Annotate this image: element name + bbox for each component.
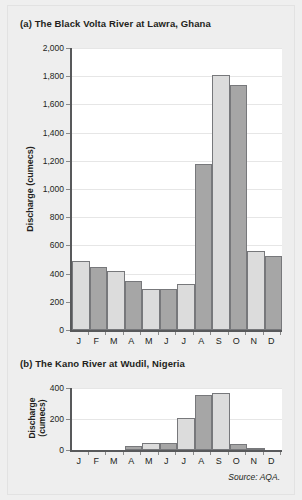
- y-axis-tick: [66, 330, 70, 331]
- x-axis-tick: [263, 332, 264, 335]
- y-axis-tick-label: 0: [28, 325, 64, 335]
- x-axis-tick-label: J: [158, 456, 176, 466]
- bar: [230, 85, 248, 330]
- bar: [247, 448, 265, 450]
- bar: [160, 289, 178, 330]
- y-axis-tick: [66, 189, 70, 190]
- y-axis-tick: [66, 274, 70, 275]
- x-axis-tick-label: J: [175, 336, 193, 346]
- x-axis-tick: [245, 332, 246, 335]
- gridline: [72, 48, 282, 49]
- y-axis-tick-label: 1,200: [28, 156, 64, 166]
- x-axis-tick: [88, 332, 89, 335]
- x-axis-tick-label: S: [210, 336, 228, 346]
- y-axis-tick: [66, 217, 70, 218]
- x-axis-tick: [210, 452, 211, 455]
- bar: [230, 444, 248, 450]
- x-axis-tick-label: S: [210, 456, 228, 466]
- x-axis-tick-label: N: [245, 336, 263, 346]
- gridline: [72, 245, 282, 246]
- x-axis-tick: [105, 332, 106, 335]
- x-axis-tick-label: D: [263, 336, 281, 346]
- x-axis-tick-label: M: [140, 336, 158, 346]
- y-axis-tick-label: 1,000: [28, 184, 64, 194]
- x-axis-tick-label: M: [140, 456, 158, 466]
- bar: [177, 418, 195, 450]
- y-axis-tick: [66, 133, 70, 134]
- x-axis-tick-label: F: [88, 456, 106, 466]
- bar: [212, 393, 230, 450]
- y-axis-tick-label: 200: [28, 297, 64, 307]
- chart-a-title: (a) The Black Volta River at Lawra, Ghan…: [20, 18, 211, 29]
- y-axis-tick: [66, 76, 70, 77]
- y-axis-tick-label: 2,000: [28, 43, 64, 53]
- x-axis-tick-label: A: [123, 456, 141, 466]
- y-axis-tick: [66, 245, 70, 246]
- x-axis-tick-label: A: [193, 336, 211, 346]
- bar: [107, 271, 125, 330]
- chart-b-plot-area: [70, 388, 282, 452]
- x-axis-tick: [175, 332, 176, 335]
- x-axis-tick: [280, 332, 281, 335]
- y-axis-tick-label: 1,800: [28, 71, 64, 81]
- figure-page: (a) The Black Volta River at Lawra, Ghan…: [8, 6, 294, 494]
- x-axis-tick: [88, 452, 89, 455]
- x-axis-tick-label: J: [70, 336, 88, 346]
- y-axis-tick: [66, 104, 70, 105]
- y-axis-tick-label: 1,400: [28, 128, 64, 138]
- gridline: [72, 133, 282, 134]
- y-axis-tick-label: 400: [28, 383, 64, 393]
- x-axis-tick: [140, 452, 141, 455]
- bar: [125, 281, 143, 330]
- y-axis-tick: [66, 48, 70, 49]
- bar: [125, 446, 143, 450]
- x-axis-tick-label: J: [70, 456, 88, 466]
- x-axis-tick: [210, 332, 211, 335]
- x-axis-tick: [193, 332, 194, 335]
- source-note: Source: AQA.: [228, 472, 280, 482]
- y-axis-tick: [66, 161, 70, 162]
- bar: [90, 267, 108, 330]
- bar: [142, 443, 160, 450]
- x-axis-tick-label: F: [88, 336, 106, 346]
- y-axis-tick-label: 0: [28, 445, 64, 455]
- x-axis-tick: [263, 452, 264, 455]
- chart-b-title: (b) The Kano River at Wudil, Nigeria: [20, 358, 185, 369]
- bar: [247, 251, 265, 330]
- x-axis-tick: [175, 452, 176, 455]
- y-axis-tick-label: 200: [28, 414, 64, 424]
- gridline: [72, 217, 282, 218]
- bar: [195, 164, 213, 330]
- bar: [195, 395, 213, 450]
- y-axis-tick-label: 600: [28, 240, 64, 250]
- chart-a-plot-area: [70, 48, 282, 332]
- x-axis-tick-label: J: [158, 336, 176, 346]
- y-axis-tick: [66, 388, 70, 389]
- bar: [265, 256, 283, 330]
- y-axis-tick: [66, 450, 70, 451]
- x-axis-tick-label: M: [105, 336, 123, 346]
- x-axis-tick: [228, 452, 229, 455]
- y-axis-tick: [66, 302, 70, 303]
- y-axis-tick-label: 800: [28, 212, 64, 222]
- x-axis-tick: [123, 332, 124, 335]
- x-axis-tick-label: O: [228, 456, 246, 466]
- bar: [72, 261, 90, 330]
- y-axis-tick: [66, 419, 70, 420]
- x-axis-tick-label: A: [193, 456, 211, 466]
- x-axis-tick: [105, 452, 106, 455]
- gridline: [72, 189, 282, 190]
- gridline: [72, 104, 282, 105]
- x-axis-tick: [280, 452, 281, 455]
- x-axis-tick: [193, 452, 194, 455]
- gridline: [72, 388, 282, 389]
- x-axis-tick-label: M: [105, 456, 123, 466]
- bar: [160, 443, 178, 450]
- x-axis-tick-label: J: [175, 456, 193, 466]
- gridline: [72, 76, 282, 77]
- x-axis-tick: [245, 452, 246, 455]
- bar: [177, 284, 195, 330]
- x-axis-tick-label: N: [245, 456, 263, 466]
- gridline: [72, 161, 282, 162]
- x-axis-tick: [140, 332, 141, 335]
